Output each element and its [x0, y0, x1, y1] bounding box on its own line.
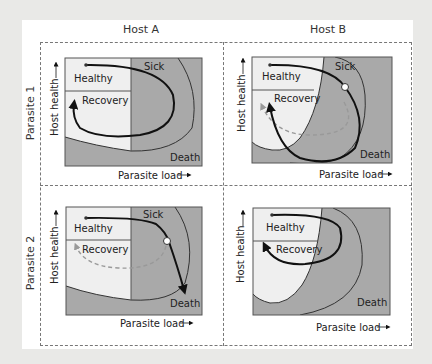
y-axis-label: Host health	[49, 78, 60, 136]
region-label-death: Death	[170, 298, 200, 309]
panel-host-b-parasite-1: Healthy Recovery Sick Death Host health …	[236, 57, 392, 180]
y-axis-label: Host health	[49, 226, 60, 284]
region-label-recovery: Recovery	[274, 93, 320, 104]
region-label-healthy: Healthy	[74, 73, 113, 84]
phase-diagrams: Healthy Recovery Sick Death Host health …	[0, 0, 432, 364]
region-label-recovery: Recovery	[276, 244, 322, 255]
y-axis-label: Host health	[236, 74, 247, 132]
x-axis-label: Parasite load	[316, 322, 381, 333]
x-axis-label: Parasite load	[319, 169, 384, 180]
y-axis-label: Host health	[235, 225, 246, 283]
region-label-healthy: Healthy	[262, 71, 301, 82]
region-label-death: Death	[360, 149, 390, 160]
region-label-sick: Sick	[144, 61, 165, 72]
x-axis-label: Parasite load	[118, 170, 183, 181]
region-label-sick: Sick	[143, 209, 164, 220]
region-label-sick: Sick	[335, 61, 356, 72]
region-label-healthy: Healthy	[266, 222, 305, 233]
panel-host-b-parasite-2: Healthy Recovery Death Host health Paras…	[235, 208, 390, 333]
x-axis-label: Parasite load	[120, 318, 185, 329]
region-label-healthy: Healthy	[74, 223, 113, 234]
region-label-recovery: Recovery	[82, 244, 128, 255]
region-label-death: Death	[170, 152, 200, 163]
panel-host-a-parasite-2: Healthy Recovery Sick Death Host health …	[49, 207, 202, 329]
panel-host-a-parasite-1: Healthy Recovery Sick Death Host health …	[49, 58, 202, 181]
region-label-recovery: Recovery	[82, 95, 128, 106]
region-label-death: Death	[357, 297, 387, 308]
